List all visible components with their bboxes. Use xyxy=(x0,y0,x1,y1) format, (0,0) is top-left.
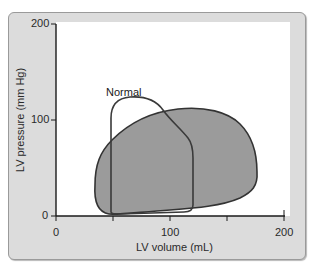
y-tick-label-200: 200 xyxy=(31,17,49,29)
y-tick-label-100: 100 xyxy=(31,113,49,125)
y-axis-title: LV pressure (mm Hg) xyxy=(14,60,26,180)
y-tick-label-0: 0 xyxy=(42,209,48,221)
x-tick-label-0: 0 xyxy=(53,226,59,238)
x-tick-label-200: 200 xyxy=(275,226,293,238)
x-tick-label-100: 100 xyxy=(161,226,179,238)
normal-loop-label: Normal xyxy=(106,86,141,98)
x-axis-title: LV volume (mL) xyxy=(136,241,213,253)
pv-loop-chart xyxy=(0,0,312,266)
